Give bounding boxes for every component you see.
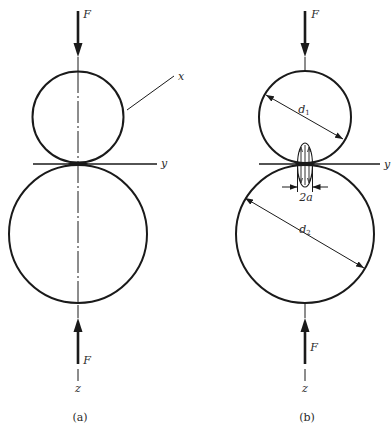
d2-main: d [299, 223, 306, 236]
force-arrow-bottom-b [301, 303, 310, 364]
z-axis-label-a: z [75, 383, 81, 394]
force-arrow-top-a [74, 11, 83, 71]
force-label-top-a: F [83, 9, 91, 20]
d2-subscript: 2 [306, 229, 310, 237]
y-axis-label-a: y [161, 158, 167, 169]
z-axis-label-b: z [302, 383, 308, 394]
x-axis-label-a: x [178, 71, 184, 82]
x-axis-leader-a [127, 76, 174, 110]
y-axis-label-b: y [384, 159, 390, 170]
hertz-contact-figure: F x y F z (a) F d1 y 2a d2 F z (b) [0, 0, 392, 427]
diagram-canvas [0, 0, 392, 427]
panel-a [9, 11, 174, 381]
force-label-top-b: F [311, 9, 319, 20]
panel-caption-a: (a) [72, 412, 87, 423]
panel-caption-b: (b) [299, 412, 315, 423]
diameter-d2-label: d2 [299, 224, 311, 237]
d1-subscript: 1 [305, 109, 309, 117]
force-label-bottom-b: F [310, 342, 318, 353]
contact-width-label: 2a [299, 192, 313, 203]
force-label-bottom-a: F [83, 355, 91, 366]
diameter-d1-label: d1 [298, 104, 310, 117]
force-arrow-top-b [301, 11, 310, 70]
d1-main: d [298, 103, 305, 116]
force-arrow-bottom-a [74, 305, 83, 364]
